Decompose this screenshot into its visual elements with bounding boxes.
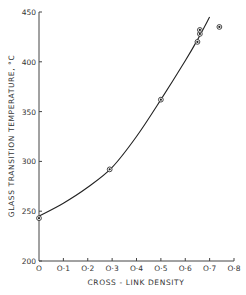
x-tick-label: O bbox=[36, 264, 42, 273]
y-tick-label: 200 bbox=[22, 257, 37, 266]
chart: OO·1O·2O·3O·4O·5O·6O·7O·8 20025030035040… bbox=[0, 0, 246, 295]
x-tick-label: O·7 bbox=[203, 264, 216, 273]
x-tick-label: O·6 bbox=[179, 264, 192, 273]
y-axis-title: GLASS TRANSITION TEMPERATURE, °C bbox=[7, 55, 16, 218]
x-tick-label: O·5 bbox=[154, 264, 167, 273]
y-tick-label: 400 bbox=[22, 58, 37, 67]
data-point bbox=[107, 167, 112, 172]
y-tick-label: 300 bbox=[22, 157, 37, 166]
y-tick-label: 250 bbox=[22, 207, 37, 216]
x-tick-label: O·4 bbox=[130, 264, 143, 273]
x-tick-label: O·1 bbox=[57, 264, 70, 273]
data-points bbox=[37, 25, 222, 221]
fitted-curve bbox=[39, 17, 210, 216]
y-tick-label: 450 bbox=[22, 8, 37, 17]
x-tick-label: O·2 bbox=[81, 264, 94, 273]
x-ticks: OO·1O·2O·3O·4O·5O·6O·7O·8 bbox=[36, 258, 241, 273]
data-point bbox=[37, 216, 42, 221]
x-tick-label: O·8 bbox=[227, 264, 240, 273]
y-tick-label: 350 bbox=[22, 108, 37, 117]
data-point bbox=[195, 39, 200, 44]
x-tick-label: O·3 bbox=[106, 264, 119, 273]
x-axis-title: CROSS - LINK DENSITY bbox=[88, 278, 185, 287]
data-point bbox=[197, 28, 202, 33]
data-point bbox=[217, 25, 222, 30]
data-point bbox=[158, 97, 163, 102]
